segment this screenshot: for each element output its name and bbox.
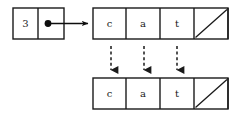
copy-arrows-group: [111, 46, 177, 70]
top-array-cell-2-label: t: [175, 18, 179, 29]
bottom-character-array: c a t: [93, 78, 228, 109]
top-array-cell-1-label: a: [140, 18, 146, 29]
bottom-array-cell-0-label: c: [107, 88, 113, 99]
bottom-array-cell-1-label: a: [140, 88, 146, 99]
header-length-label: 3: [22, 18, 28, 29]
bottom-array-cell-2-label: t: [175, 88, 179, 99]
top-character-array: c a t: [93, 8, 228, 39]
top-array-cell-0-label: c: [107, 18, 113, 29]
array-copy-diagram: 3 c a t: [0, 0, 238, 114]
string-header-node: 3: [13, 8, 88, 39]
